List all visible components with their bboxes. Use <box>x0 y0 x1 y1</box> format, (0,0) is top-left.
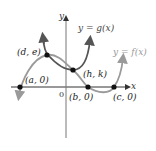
curve-f-left-arrow <box>19 90 20 96</box>
y-axis-label: y <box>58 11 65 21</box>
point-c <box>111 84 116 89</box>
curve-g-left-arrow <box>43 37 44 44</box>
curve-f-label: y = f(x) <box>112 47 147 57</box>
point-h-k <box>70 67 75 72</box>
curve-g-label: y = g(x) <box>77 23 115 33</box>
point-c-label: (c, 0) <box>113 92 137 102</box>
x-axis-label: x <box>131 81 136 91</box>
point-h-k-label: (h, k) <box>83 69 107 79</box>
point-a <box>17 84 22 89</box>
point-d-e-label: (d, e) <box>17 47 41 57</box>
point-b-label: (b, 0) <box>69 92 94 102</box>
point-a-label: (a, 0) <box>25 75 49 85</box>
point-d-e <box>44 52 49 57</box>
origin-label: 0 <box>59 90 64 99</box>
point-b <box>85 84 90 89</box>
function-graph: x y 0 y = g(x) y = f(x) (a, 0) (d, e) (h… <box>0 0 156 151</box>
